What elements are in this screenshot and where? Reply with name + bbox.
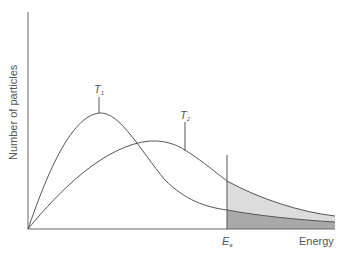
y-axis-label: Number of particles	[7, 64, 19, 160]
ea-label: Ea	[222, 235, 233, 248]
t1-label: T1	[94, 83, 104, 96]
x-axis-label: Energy	[299, 235, 334, 247]
t2-label: T2	[180, 109, 191, 122]
energy-distribution-diagram: Number of particles Energy T1 T2 Ea	[0, 0, 347, 263]
